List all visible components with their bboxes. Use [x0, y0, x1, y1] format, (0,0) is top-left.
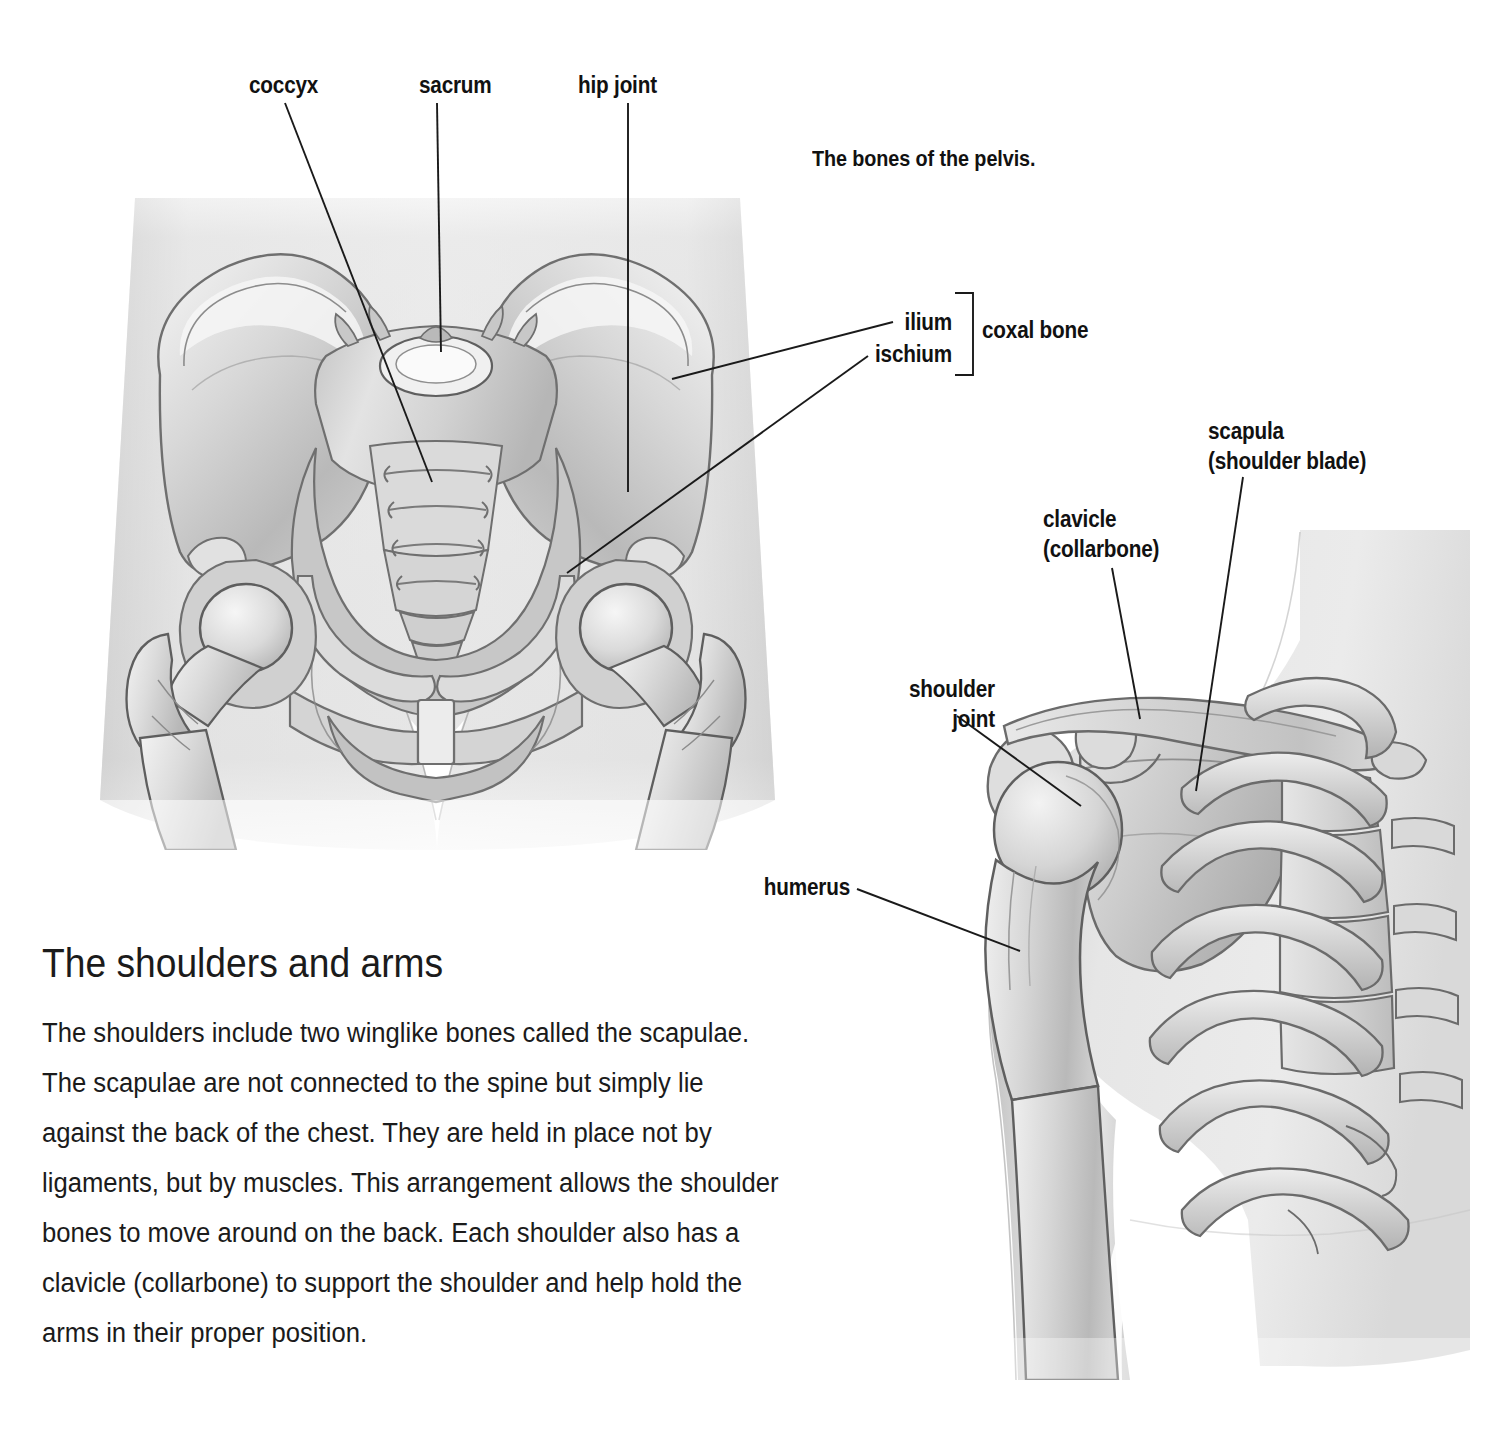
label-ilium: ilium — [826, 309, 952, 336]
label-sacrum: sacrum — [419, 72, 492, 99]
body-paragraph: The shoulders include two winglike bones… — [42, 1008, 793, 1358]
page-canvas: coccyx sacrum hip joint ilium ischium co… — [0, 0, 1485, 1436]
page-title: The shoulders and arms — [42, 940, 786, 986]
label-hip-joint: hip joint — [578, 72, 657, 99]
article-text-block: The shoulders and arms The shoulders inc… — [42, 940, 842, 1358]
label-humerus: humerus — [670, 874, 850, 901]
label-clavicle-line2: (collarbone) — [1043, 536, 1159, 563]
caption-pelvis: The bones of the pelvis. — [812, 146, 1035, 172]
label-coxal-bone: coxal bone — [982, 317, 1088, 344]
label-clavicle-line1: clavicle — [1043, 506, 1116, 533]
label-scapula-line2: (shoulder blade) — [1208, 448, 1366, 475]
label-ischium: ischium — [826, 341, 952, 368]
shoulder-illustration — [830, 520, 1470, 1380]
label-scapula-line1: scapula — [1208, 418, 1284, 445]
label-coccyx: coccyx — [249, 72, 318, 99]
label-shoulder-joint-line2: joint — [770, 706, 995, 733]
pelvis-illustration — [40, 160, 830, 850]
label-shoulder-joint-line1: shoulder — [770, 676, 995, 703]
bracket-coxal-bone — [955, 293, 973, 375]
